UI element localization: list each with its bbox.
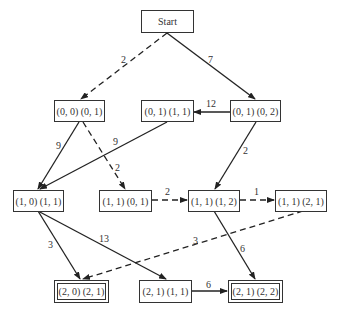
edge-label: 12 — [206, 98, 216, 109]
node-01-11: (0, 1) (1, 1) — [141, 100, 194, 122]
edge-n01_02-n11_12 — [215, 122, 256, 189]
goal-node-20-21: (2, 0) (2, 1) — [54, 280, 109, 303]
edge-label: 7 — [208, 54, 213, 65]
edge-label: 1 — [254, 186, 259, 197]
edge-label: 9 — [56, 140, 61, 151]
node-00-01: (0, 0) (0, 1) — [54, 100, 105, 122]
node-21-11: (2, 1) (1, 1) — [139, 280, 192, 303]
edge-label: 2 — [115, 162, 120, 173]
edge-label: 3 — [193, 235, 198, 246]
node-label: (0, 1) (1, 1) — [145, 106, 191, 117]
edge-n11_12-n21_22 — [214, 211, 255, 279]
edge-n10_11-n20_21 — [38, 211, 80, 279]
edge-label: 2 — [243, 145, 248, 156]
node-label: (1, 1) (1, 2) — [191, 196, 237, 207]
node-label: Start — [158, 16, 177, 27]
goal-node-21-22: (2, 1) (2, 2) — [228, 280, 283, 303]
edges-layer — [0, 0, 339, 315]
node-11-12: (1, 1) (1, 2) — [188, 190, 240, 212]
node-10-11: (1, 0) (1, 1) — [13, 190, 64, 212]
edge-label: 9 — [113, 136, 118, 147]
node-label: (2, 1) (1, 1) — [143, 286, 189, 297]
node-11-21: (1, 1) (2, 1) — [275, 190, 327, 212]
node-label: (1, 1) (2, 1) — [278, 196, 324, 207]
edge-label: 3 — [48, 239, 53, 250]
node-label: (2, 0) (2, 1) — [59, 286, 105, 297]
node-label: (1, 1) (0, 1) — [103, 196, 149, 207]
edge-start-n00_01 — [81, 33, 167, 99]
edge-label: 2 — [165, 186, 170, 197]
node-label: (0, 0) (0, 1) — [57, 106, 103, 117]
node-label: (1, 0) (1, 1) — [16, 196, 62, 207]
edge-n10_11-n21_11 — [38, 211, 166, 279]
node-label: (0, 1) (0, 2) — [233, 106, 279, 117]
node-label: (2, 1) (2, 2) — [233, 286, 279, 297]
edge-start-n01_02 — [167, 33, 255, 99]
edge-label: 6 — [206, 279, 211, 290]
node-11-01: (1, 1) (0, 1) — [99, 190, 152, 212]
edge-label: 6 — [240, 243, 245, 254]
node-start: Start — [141, 10, 194, 33]
edge-label: 2 — [121, 54, 126, 65]
node-01-02: (0, 1) (0, 2) — [230, 100, 281, 122]
edge-label: 13 — [99, 233, 109, 244]
